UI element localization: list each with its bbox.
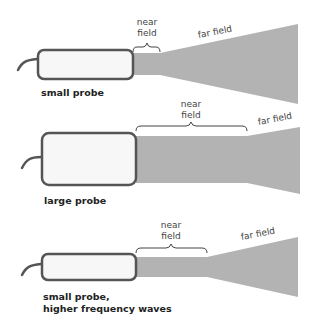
near-field-label-small-probe: near field	[137, 17, 157, 39]
near-label-line2: field	[161, 231, 181, 242]
probe-label-line2: higher frequency waves	[43, 303, 172, 315]
near-field-label-large-probe: near field	[181, 99, 201, 121]
probe-small	[38, 50, 133, 79]
beam-small-probe-high-frequency	[136, 237, 298, 297]
brace-near-field-small-probe-high-frequency	[136, 244, 207, 253]
brace-near-field-small-probe	[133, 43, 160, 52]
near-label-line2: field	[137, 28, 157, 39]
near-label-line2: field	[181, 110, 201, 121]
probe-small-high-frequency	[42, 254, 136, 280]
probe-large	[42, 133, 136, 185]
probe-label-large-probe: large probe	[44, 195, 106, 207]
panel-small-probe-high-frequency	[22, 237, 298, 297]
near-label-line1: near	[181, 99, 201, 110]
brace-near-field-large-probe	[136, 122, 247, 131]
cable-large-probe	[22, 157, 41, 168]
beam-large-probe	[136, 127, 300, 194]
panel-large-probe	[22, 122, 300, 194]
diagram-graphics	[0, 0, 311, 331]
probe-label-small-probe: small probe	[41, 87, 104, 99]
probe-label-line1: small probe,	[43, 291, 172, 303]
near-label-line1: near	[161, 220, 181, 231]
cable-small-probe-high-frequency	[22, 264, 41, 275]
cable-small-probe	[18, 59, 37, 70]
ultrasound-probe-diagram: near field far field small probe near fi…	[0, 0, 311, 331]
probe-label-high-frequency: small probe, higher frequency waves	[43, 291, 172, 315]
near-field-label-high-frequency: near field	[161, 220, 181, 242]
near-label-line1: near	[137, 17, 157, 28]
